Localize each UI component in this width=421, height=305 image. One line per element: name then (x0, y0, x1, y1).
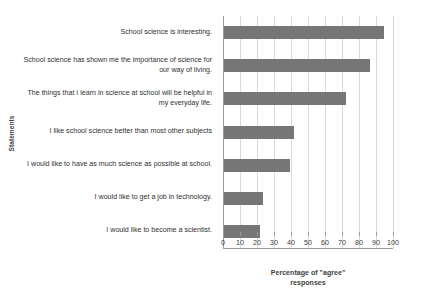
category-labels: School science is interesting.School sci… (18, 16, 216, 248)
x-axis-tick (240, 232, 241, 236)
category-label: I would like to become a scientist. (18, 226, 212, 236)
x-axis-tick (223, 232, 224, 236)
category-label: I would like to get a job in technology. (18, 193, 212, 203)
x-axis-tick (359, 232, 360, 236)
bar (224, 26, 384, 39)
x-axis-tick (342, 232, 343, 236)
bar (224, 126, 294, 139)
bar (224, 92, 346, 105)
x-axis-tick (308, 232, 309, 236)
x-axis-tick (393, 232, 394, 236)
gridline (308, 16, 309, 248)
x-axis-tick (376, 232, 377, 236)
plot-area (223, 16, 393, 248)
gridline (359, 16, 360, 248)
category-label: I like school science better than most o… (18, 127, 212, 137)
gridline (393, 16, 394, 248)
category-label: I would like to have as much science as … (18, 160, 212, 170)
x-axis-tick (257, 232, 258, 236)
x-axis-tick (325, 232, 326, 236)
bar-chart: Statements School science is interesting… (0, 0, 421, 305)
category-label: The things that I learn in science at sc… (18, 89, 212, 108)
x-axis-tick-label: 100 (381, 238, 405, 247)
category-label: School science is interesting. (18, 28, 212, 38)
category-label: School science has shown me the importan… (18, 56, 212, 75)
bar (224, 192, 263, 205)
y-axis-title: Statements (8, 99, 15, 169)
x-axis-line (223, 248, 393, 249)
x-axis-title: Percentage of "agree" responses (223, 268, 393, 288)
bar (224, 159, 290, 172)
bar (224, 225, 260, 238)
x-axis-title-line-2: responses (223, 278, 393, 288)
x-axis-title-line-1: Percentage of "agree" (223, 268, 393, 278)
x-axis-tick (274, 232, 275, 236)
gridline (342, 16, 343, 248)
gridline (325, 16, 326, 248)
bar (224, 59, 370, 72)
gridline (376, 16, 377, 248)
x-axis-tick (291, 232, 292, 236)
